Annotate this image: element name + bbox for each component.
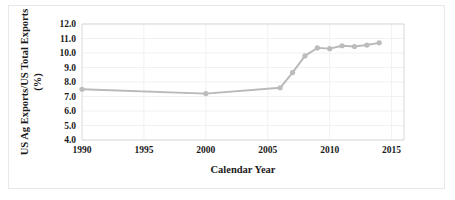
x-tick-label: 1995 — [134, 145, 153, 155]
x-tick-label: 2015 — [382, 145, 401, 155]
data-point — [352, 44, 357, 49]
y-axis-title-line2: (%) — [32, 73, 44, 91]
x-tick-label: 1990 — [73, 145, 92, 155]
data-point — [315, 45, 320, 50]
y-tick-label: 10.0 — [59, 48, 76, 58]
data-point — [364, 42, 369, 47]
data-point — [79, 87, 84, 92]
y-tick-label: 8.0 — [64, 77, 76, 87]
y-tick-label: 11.0 — [60, 34, 76, 44]
data-point — [339, 43, 344, 48]
line-chart: 4.05.06.07.08.09.010.011.012.0 199019952… — [0, 0, 455, 200]
y-tick-label: 5.0 — [64, 121, 76, 131]
chart-figure: 4.05.06.07.08.09.010.011.012.0 199019952… — [0, 0, 455, 200]
data-series — [79, 40, 381, 96]
data-point — [203, 91, 208, 96]
series-line — [82, 43, 379, 94]
y-axis-title-line1: US Ag Exports/US Total Exports — [19, 9, 30, 155]
data-point — [290, 70, 295, 75]
y-axis-tick-labels: 4.05.06.07.08.09.010.011.012.0 — [59, 19, 76, 145]
x-axis-title: Calendar Year — [210, 164, 275, 175]
y-tick-label: 4.0 — [64, 135, 76, 145]
data-point — [327, 46, 332, 51]
y-tick-label: 12.0 — [59, 19, 76, 29]
data-point — [302, 53, 307, 58]
x-tick-label: 2005 — [258, 145, 277, 155]
gridlines — [82, 24, 404, 140]
y-tick-label: 7.0 — [64, 92, 76, 102]
y-tick-label: 9.0 — [64, 63, 76, 73]
x-axis-tick-labels: 199019952000200520102015 — [73, 145, 402, 155]
y-tick-label: 6.0 — [64, 106, 76, 116]
data-point — [377, 40, 382, 45]
data-point — [278, 85, 283, 90]
x-tick-label: 2000 — [196, 145, 215, 155]
x-tick-label: 2010 — [320, 145, 339, 155]
